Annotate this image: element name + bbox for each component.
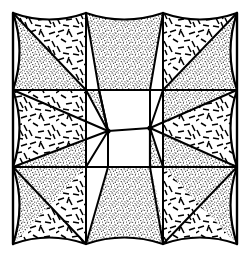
figure-root	[0, 0, 248, 259]
center-node-right	[147, 125, 152, 130]
pattern-drawing	[0, 0, 248, 259]
center-node-left	[105, 128, 110, 133]
